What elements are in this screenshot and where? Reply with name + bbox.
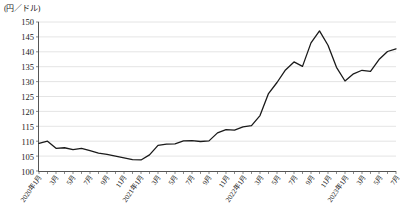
x-axis-tick-label: 7月 (185, 174, 197, 187)
x-axis-tick-label: 5月 (168, 174, 180, 187)
y-axis-tick-135: 135 (21, 63, 34, 71)
x-axis-tick-label: 5月 (271, 174, 283, 187)
x-axis-tick-label: 11月 (218, 174, 232, 189)
x-axis-tick-label: 11月 (115, 174, 129, 189)
x-axis-tick-label: 11月 (320, 174, 334, 189)
y-axis-tick-115: 115 (22, 123, 34, 131)
x-axis-tick-label: 9月 (202, 174, 214, 187)
y-axis-tick-140: 140 (21, 48, 34, 56)
y-axis-tick-145: 145 (21, 33, 34, 41)
x-axis-tick-label: 5月 (66, 174, 78, 187)
y-axis-unit-label: (円／ドル) (4, 2, 40, 13)
y-axis-tick-150: 150 (21, 18, 34, 26)
y-axis-tick-110: 110 (22, 138, 34, 146)
y-axis-tick-100: 100 (21, 168, 34, 176)
y-axis-tick-105: 105 (21, 153, 34, 161)
plot-area (38, 22, 396, 172)
y-axis-tick-125: 125 (21, 93, 34, 101)
x-axis-tick-label: 3月 (356, 174, 368, 187)
y-axis-tick-130: 130 (21, 78, 34, 86)
x-axis-tick-label: 7月 (390, 174, 401, 187)
x-axis-tick-label: 3月 (151, 174, 163, 187)
x-axis-tick-label: 9月 (100, 174, 112, 187)
x-axis-tick-label: 7月 (288, 174, 300, 187)
exchange-rate-line-chart: (円／ドル) 100105110115120125130135140145150… (0, 0, 401, 221)
data-series-line (39, 22, 396, 171)
x-axis-tick-label: 2020年1月 (20, 174, 44, 204)
x-axis-tick-label: 3月 (49, 174, 61, 187)
x-axis-tick-label: 7月 (83, 174, 95, 187)
x-axis-tick-label: 9月 (305, 174, 317, 187)
x-axis-tick-label: 3月 (254, 174, 266, 187)
y-axis-tick-120: 120 (21, 108, 34, 116)
y-axis-tick-labels: 100105110115120125130135140145150 (0, 22, 34, 172)
x-axis-tick-label: 5月 (373, 174, 385, 187)
x-axis-tick-labels: 2020年1月3月5月7月9月11月2021年1月3月5月7月9月11月2022… (38, 174, 396, 221)
